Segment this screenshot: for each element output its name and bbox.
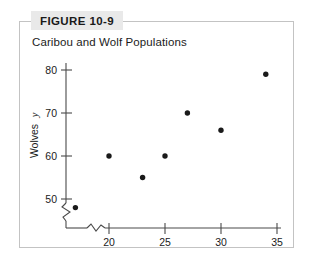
y-tick-label-50: 50 [45,193,57,205]
svg-text:y: y [29,112,40,118]
data-point [162,153,167,158]
data-point [106,153,111,158]
data-point [73,205,78,210]
scatter-plot: 80 70 60 50 20 25 30 35 [19,21,294,248]
data-point [140,175,145,180]
y-tick-label-60: 60 [45,150,57,162]
y-axis-tick-labels: 80 70 60 50 [45,64,57,205]
data-points [73,72,269,211]
data-point [263,72,268,77]
figure-number-label: FIGURE 10-9 [40,15,114,27]
x-axis-tick-labels: 20 25 30 35 [103,236,283,248]
svg-text:Wolves: Wolves [28,124,40,158]
scatter-plot-svg: 80 70 60 50 20 25 30 35 [19,21,294,248]
figure-banner: FIGURE 10-9 [31,11,123,30]
figure-root: FIGURE 10-9 Caribou and Wolf Populations [0,0,313,270]
y-tick-label-70: 70 [45,107,57,119]
y-axis-break-icon [62,203,70,221]
y-axis-title: Wolves y [28,112,40,158]
x-axis-break-icon [87,224,105,231]
x-tick-label-30: 30 [215,236,227,248]
x-tick-label-35: 35 [271,236,283,248]
data-point [218,128,223,133]
data-point [185,110,190,115]
y-tick-label-80: 80 [45,64,57,76]
x-tick-label-20: 20 [103,236,115,248]
x-tick-label-25: 25 [159,236,171,248]
